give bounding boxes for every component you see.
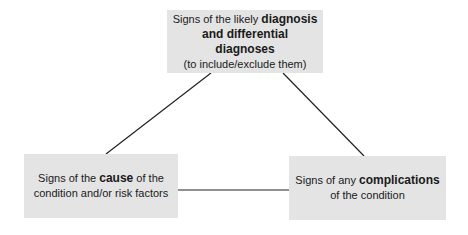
node-text: condition and/or risk factors: [34, 187, 169, 199]
node-text: (to include/exclude them): [184, 58, 307, 70]
node-text: Signs of any: [295, 174, 359, 186]
node-text: of the: [133, 172, 164, 184]
edge-top-right: [283, 73, 364, 156]
node-text: of the condition: [330, 189, 405, 201]
node-cause: Signs of the cause of the condition and/…: [24, 154, 178, 218]
node-text: Signs of the likely: [173, 13, 262, 25]
node-text: Signs of the: [38, 172, 99, 184]
node-diagnosis: Signs of the likely diagnosis and differ…: [167, 10, 323, 73]
node-bold-text: and differential diagnoses: [202, 27, 288, 56]
node-bold-text: diagnosis: [261, 12, 317, 26]
node-complications: Signs of any complications of the condit…: [289, 156, 446, 220]
node-bold-text: cause: [99, 171, 133, 185]
node-bold-text: complications: [359, 173, 440, 187]
edge-top-left: [106, 73, 211, 154]
